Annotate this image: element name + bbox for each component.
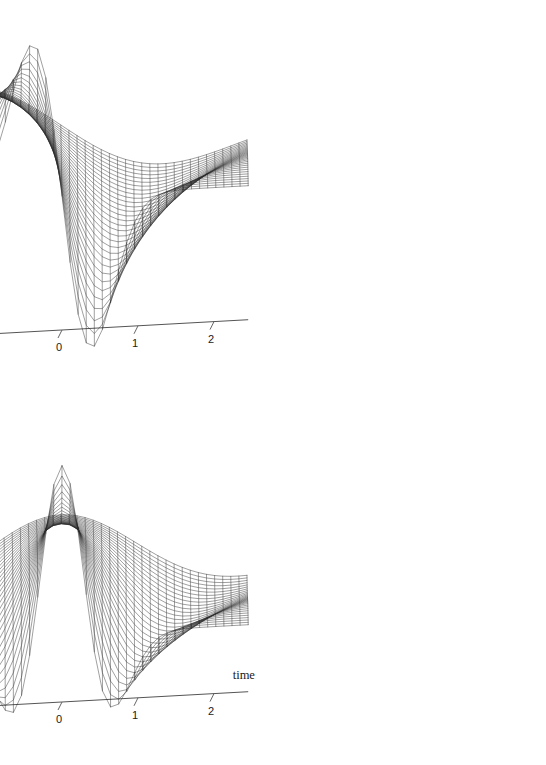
mesh-surface (0, 46, 248, 346)
x-tick-label: 2 (208, 333, 214, 345)
mesh-surface (0, 466, 248, 713)
surface-plot-bottom-canvas: -0.100.10.20.302-2-1012radiustime (0, 380, 546, 765)
figure-page: -0.2-0.15-0.1-0.0500.050.10.150.202-2-10… (0, 0, 546, 765)
x-tick-label: 0 (56, 341, 62, 353)
x-tick-label: 2 (208, 705, 214, 717)
x-tick-label: 0 (56, 713, 62, 725)
surface-plot-top-canvas: -0.2-0.15-0.1-0.0500.050.10.150.202-2-10… (0, 0, 546, 400)
x-tick-label: 1 (132, 337, 138, 349)
surface-plot-bottom: -0.100.10.20.302-2-1012radiustime (0, 380, 546, 765)
surface-plot-top: -0.2-0.15-0.1-0.0500.050.10.150.202-2-10… (0, 0, 546, 395)
x-tick-label: 1 (132, 709, 138, 721)
x-axis-title: time (233, 668, 256, 682)
